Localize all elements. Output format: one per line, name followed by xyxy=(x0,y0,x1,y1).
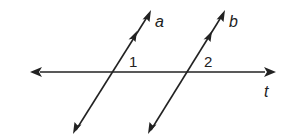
parallel-lines-diagram: a b t 1 2 xyxy=(0,0,286,138)
label-t: t xyxy=(264,83,269,100)
arrow-up-icon xyxy=(143,10,152,22)
angle-2-label: 2 xyxy=(204,53,212,70)
arrow-up-icon xyxy=(217,10,226,22)
parallel-mark-icon xyxy=(204,31,213,42)
line-t xyxy=(30,67,276,77)
angle-1-label: 1 xyxy=(129,53,137,70)
label-a: a xyxy=(155,13,164,30)
label-b: b xyxy=(229,13,238,30)
arrow-right-icon xyxy=(264,67,276,77)
